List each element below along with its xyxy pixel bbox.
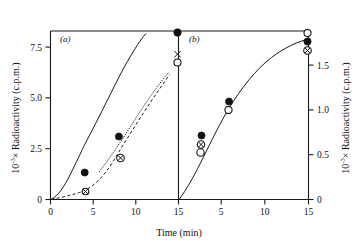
panel-a-filled-point-1	[81, 169, 88, 176]
right-y-title-suffix: × Radioactivity (c.p.m.)	[340, 62, 352, 158]
panel-b-ytick-label-2: 1.0	[317, 105, 329, 115]
panel-b-open-point-1	[197, 149, 204, 156]
x-axis-title: Time (min)	[156, 227, 201, 239]
right-y-title-prefix: 10	[340, 164, 351, 174]
panel-b-xtick-label-10: 10	[260, 207, 270, 217]
left-y-title-prefix: 10	[10, 164, 21, 174]
panel-a-solid-curve	[52, 34, 147, 200]
panel-a-label: (a)	[60, 34, 71, 44]
svg-text:10-3× Radioactivity (c.p.m.): 10-3× Radioactivity (c.p.m.)	[339, 62, 352, 173]
right-y-axis-title: 10-3× Radioactivity (c.p.m.)	[339, 62, 352, 173]
panel-a-ytick-label-0: 0	[37, 195, 42, 205]
panel-b-ytick-label-0: 0	[317, 195, 322, 205]
panel-b-open-point-3	[304, 30, 311, 37]
panel-a-xtick-label-5: 5	[91, 207, 96, 217]
panel-b-filled-point-1	[198, 132, 205, 139]
panel-b-label: (b)	[189, 34, 200, 44]
panel-a-filled-point-2	[115, 133, 122, 140]
panel-b-curve	[180, 40, 307, 200]
panel-b-filled-point-3	[304, 38, 311, 45]
panel-b-xtick-label-5: 5	[219, 207, 224, 217]
panel-b-open-point-2	[225, 106, 232, 113]
panel-a-open-point-3	[174, 59, 181, 66]
panel-b-ytick-label-1: 0.5	[317, 150, 329, 160]
panel-a-xtick-label-10: 10	[131, 207, 141, 217]
panel-a-ytick-label-3: 5.0	[30, 93, 42, 103]
chart-svg: 0 2.5 5.0 7.5 0 5 10 15 5 10 15 0 0.5 1.…	[0, 0, 359, 246]
panel-a-xtick-label-15: 15	[174, 207, 184, 217]
panel-a-x-marker	[174, 51, 180, 57]
panel-b-xtick-label-15: 15	[304, 207, 314, 217]
panel-a-ytick-label-2: 2.5	[30, 144, 42, 154]
svg-text:10-3× Radioactivity (c.p.m.): 10-3× Radioactivity (c.p.m.)	[9, 62, 22, 173]
panel-a-ytick-label-4: 7.5	[30, 43, 42, 53]
panel-b-ytick-label-3: 1.5	[317, 61, 329, 71]
panel-a-dotted-curve	[99, 73, 169, 173]
panel-a-filled-point-3	[174, 29, 181, 36]
panel-b-filled-point-2	[226, 98, 233, 105]
panel-a-xtick-label-0: 0	[48, 207, 53, 217]
left-y-axis-title: 10-3× Radioactivity (c.p.m.)	[9, 62, 22, 173]
left-y-title-suffix: × Radioactivity (c.p.m.)	[10, 62, 22, 158]
figure-container: 0 2.5 5.0 7.5 0 5 10 15 5 10 15 0 0.5 1.…	[0, 0, 359, 246]
